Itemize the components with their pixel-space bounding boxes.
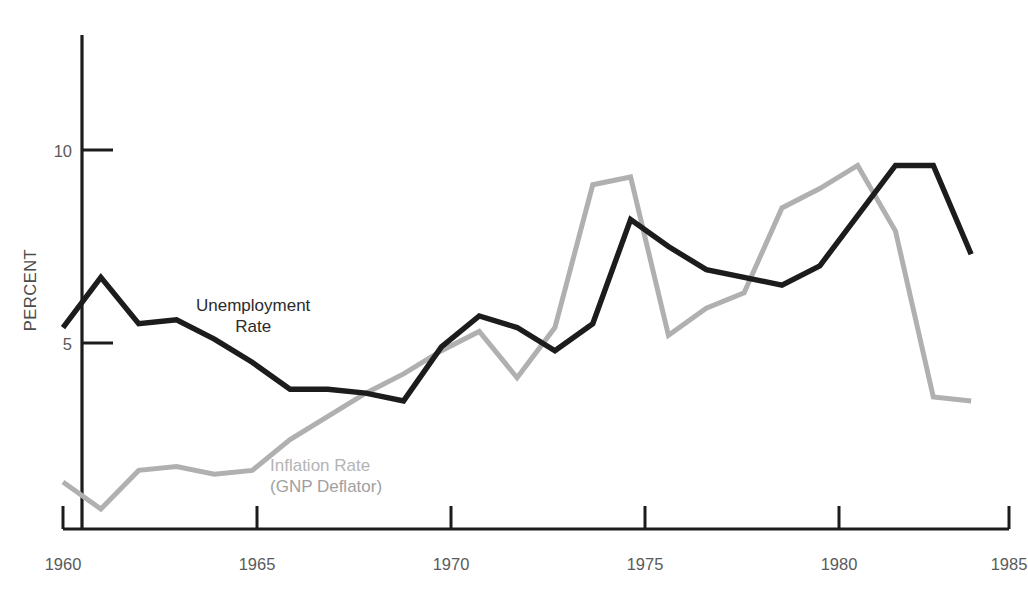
x-tick-label-1980: 1980 bbox=[821, 555, 858, 573]
x-tick-label-1970: 1970 bbox=[433, 555, 470, 573]
x-tick-label-1985: 1985 bbox=[991, 555, 1028, 573]
series-line-inflation-rate bbox=[63, 165, 971, 509]
annotation-unemployment-line2: Rate bbox=[196, 316, 310, 337]
y-axis-title: PERCENT bbox=[21, 249, 39, 331]
x-tick-label-1975: 1975 bbox=[627, 555, 664, 573]
annotation-inflation-rate: Inflation Rate (GNP Deflator) bbox=[270, 455, 382, 497]
x-tick-label-1960: 1960 bbox=[45, 555, 82, 573]
series-line-unemployment-rate bbox=[63, 165, 971, 400]
y-tick-label-5: 5 bbox=[63, 335, 72, 353]
annotation-inflation-line1: Inflation Rate bbox=[270, 455, 382, 476]
x-tick-label-1965: 1965 bbox=[239, 555, 276, 573]
annotation-unemployment-rate: Unemployment Rate bbox=[196, 295, 310, 337]
chart-container: 10 5 1960 1965 1970 1975 1980 1985 PERCE… bbox=[0, 0, 1028, 594]
line-chart-plot: 10 5 1960 1965 1970 1975 1980 1985 PERCE… bbox=[0, 0, 1028, 594]
annotation-unemployment-line1: Unemployment bbox=[196, 295, 310, 316]
annotation-inflation-line2: (GNP Deflator) bbox=[270, 476, 382, 497]
y-tick-label-10: 10 bbox=[54, 142, 72, 160]
